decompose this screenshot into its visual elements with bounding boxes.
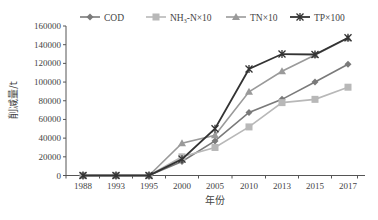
- y-axis-label: 削减量/t: [7, 81, 19, 118]
- legend-label: COD: [104, 13, 124, 23]
- legend-label: NH3-N×10: [170, 13, 212, 24]
- y-tick-label: 80000: [39, 96, 62, 106]
- x-tick-label: 2017: [339, 181, 358, 191]
- x-tick-label: 2005: [206, 181, 225, 191]
- y-tick-label: 40000: [39, 133, 62, 143]
- x-tick-label: 1995: [140, 181, 159, 191]
- x-tick-label: 2013: [273, 181, 292, 191]
- legend-item: TP×100: [290, 13, 345, 23]
- legend-label: TP×100: [314, 13, 345, 23]
- figure-caption-cropped: [80, 210, 300, 214]
- y-tick-label: 0: [57, 171, 62, 181]
- y-tick-label: 140000: [34, 40, 62, 50]
- legend-item: TN×10: [226, 13, 278, 23]
- y-tick-label: 20000: [39, 152, 62, 162]
- series-cod: [80, 61, 352, 179]
- x-axis-label: 年份: [205, 194, 225, 206]
- x-tick-label: 1988: [74, 181, 93, 191]
- y-tick-label: 120000: [34, 58, 62, 68]
- y-tick-label: 160000: [34, 21, 62, 31]
- x-tick-label: 2000: [173, 181, 192, 191]
- series-tp-100: [80, 34, 352, 180]
- legend: CODNH3-N×10TN×10TP×100: [80, 13, 345, 24]
- y-tick-label: 60000: [39, 114, 62, 124]
- legend-item: NH3-N×10: [146, 13, 212, 24]
- line-chart: 0200004000060000800001000001200001400001…: [0, 0, 378, 220]
- x-tick-label: 2010: [240, 181, 259, 191]
- x-tick-label: 2015: [306, 181, 325, 191]
- series-tn-10: [79, 34, 352, 178]
- legend-label: TN×10: [250, 13, 278, 23]
- x-tick-label: 1993: [107, 181, 126, 191]
- y-tick-label: 100000: [34, 77, 62, 87]
- axes: 0200004000060000800001000001200001400001…: [7, 21, 365, 206]
- series-group: [79, 34, 352, 180]
- legend-item: COD: [80, 13, 124, 23]
